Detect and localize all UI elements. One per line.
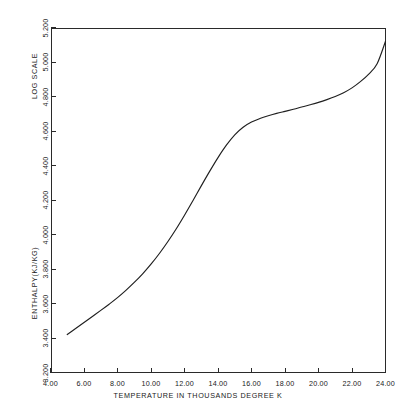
y-tick-label: 4.400 — [41, 156, 50, 175]
x-tick — [385, 368, 386, 373]
x-tick — [184, 368, 185, 373]
y-tick — [51, 303, 56, 304]
x-tick-label: 6.00 — [77, 379, 92, 388]
y-tick-label: 4.000 — [41, 225, 50, 244]
x-tick — [218, 368, 219, 373]
y-axis-title-log-scale: LOG SCALE — [30, 53, 39, 99]
x-tick-label: 18.00 — [276, 379, 295, 388]
y-axis-title-enthalpy: ENTHALPY(KJ/KG) — [30, 247, 39, 320]
y-tick-label: 4.200 — [41, 191, 50, 210]
y-tick — [51, 96, 56, 97]
y-tick — [51, 200, 56, 201]
x-tick-label: 12.00 — [175, 379, 194, 388]
x-axis-title: TEMPERATURE IN THOUSANDS DEGREE K — [114, 391, 283, 400]
x-tick — [151, 368, 152, 373]
y-tick-label: 4.800 — [41, 87, 50, 106]
x-tick-label: 22.00 — [343, 379, 362, 388]
x-tick — [352, 368, 353, 373]
x-tick-label: 10.00 — [142, 379, 161, 388]
y-tick — [51, 165, 56, 166]
x-tick — [318, 368, 319, 373]
y-tick-label: 5.000 — [41, 53, 50, 72]
y-tick-label: 4.600 — [41, 122, 50, 141]
x-tick — [117, 368, 118, 373]
enthalpy-curve — [67, 41, 385, 334]
x-tick-label: 20.00 — [309, 379, 328, 388]
x-tick — [285, 368, 286, 373]
x-tick-label: 14.00 — [209, 379, 228, 388]
figure: 4.006.008.0010.0012.0014.0016.0018.0020.… — [0, 0, 417, 418]
y-tick — [51, 131, 56, 132]
y-tick — [51, 269, 56, 270]
y-tick-label: 3.200 — [41, 363, 50, 382]
y-tick — [51, 62, 56, 63]
x-tick — [251, 368, 252, 373]
y-tick-label: 3.800 — [41, 260, 50, 279]
y-tick-label: 3.400 — [41, 329, 50, 348]
x-tick — [84, 368, 85, 373]
x-tick-label: 8.00 — [110, 379, 125, 388]
x-tick-label: 16.00 — [242, 379, 261, 388]
y-tick — [51, 372, 56, 373]
y-tick — [51, 234, 56, 235]
chart-canvas — [0, 0, 417, 418]
y-tick-label: 5.200 — [41, 18, 50, 37]
y-tick — [51, 27, 56, 28]
y-tick — [51, 338, 56, 339]
x-tick-label: 24.00 — [376, 379, 395, 388]
y-tick-label: 3.600 — [41, 294, 50, 313]
